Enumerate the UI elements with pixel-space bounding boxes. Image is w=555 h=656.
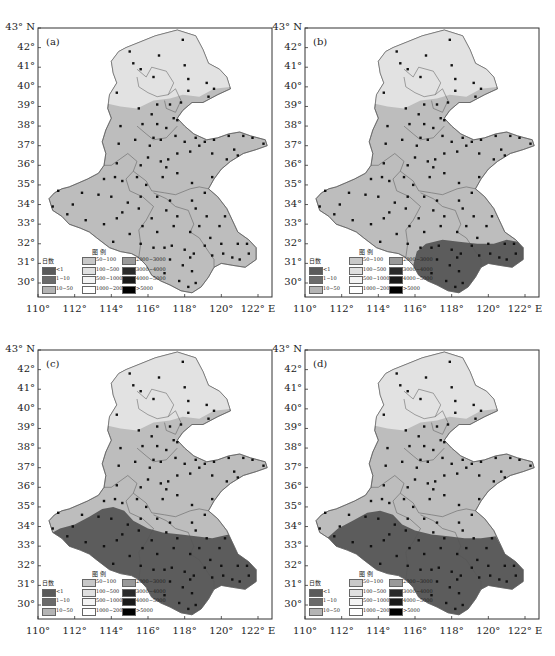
station-marker [471, 245, 473, 247]
station-marker [423, 553, 425, 555]
station-marker [191, 182, 193, 184]
lat-tick-label: 43° N [272, 21, 302, 32]
station-marker [228, 135, 230, 137]
legend-item-label: 500~1000 [363, 597, 389, 603]
station-marker [462, 459, 464, 461]
station-marker [156, 103, 158, 105]
station-marker [160, 160, 162, 162]
legend-item-label: 2000~3000 [136, 256, 166, 262]
station-marker [127, 201, 129, 203]
lat-tick-label: 33° [272, 539, 302, 550]
legend-swatch [82, 589, 96, 597]
station-marker [204, 463, 206, 465]
legend-item-label: 10~50 [323, 607, 340, 613]
station-marker [251, 137, 253, 139]
station-marker [456, 578, 458, 580]
station-marker [462, 529, 464, 531]
legend-item: <1 [307, 266, 347, 274]
legend-swatch [349, 579, 363, 587]
lon-tick-label: 112° [55, 303, 95, 314]
station-marker [425, 376, 427, 378]
station-marker [449, 264, 451, 266]
station-marker [513, 565, 515, 567]
station-marker [493, 480, 495, 482]
lat-tick-label: 33° [272, 217, 302, 228]
station-marker [118, 465, 120, 467]
station-marker [52, 527, 54, 529]
station-marker [432, 127, 434, 129]
station-marker [513, 243, 515, 245]
station-marker [233, 148, 235, 150]
station-marker [407, 565, 409, 567]
station-marker [352, 541, 354, 543]
lat-tick-label: 32° [5, 559, 35, 570]
legend-item: 1000~2000 [80, 285, 120, 293]
legend-item: 1~10 [307, 275, 347, 283]
legend-item-label: 4000~5000 [403, 275, 433, 281]
panel-label: (b) [313, 36, 327, 47]
station-marker [456, 256, 458, 258]
station-marker [407, 68, 409, 70]
station-marker [211, 474, 213, 476]
station-marker [169, 521, 171, 523]
lon-tick-label: 110° [18, 303, 58, 314]
lat-tick-label: 34° [5, 520, 35, 531]
station-marker [454, 608, 456, 610]
station-marker [195, 137, 197, 139]
station-marker [418, 113, 420, 115]
station-marker [465, 547, 467, 549]
station-marker [195, 282, 197, 284]
station-marker [443, 152, 445, 154]
station-marker [504, 476, 506, 478]
lon-tick-label: 118° [432, 303, 472, 314]
station-marker [529, 143, 531, 145]
station-marker [333, 535, 335, 537]
station-marker [189, 472, 191, 474]
station-marker [529, 465, 531, 467]
legend-item: 3000~4000 [387, 266, 427, 274]
station-marker [228, 457, 230, 459]
station-marker [151, 539, 153, 541]
legend-item: 1000~2000 [347, 285, 387, 293]
station-marker [173, 439, 175, 441]
station-marker [140, 196, 142, 198]
station-marker [449, 586, 451, 588]
station-marker [407, 518, 409, 520]
station-marker [441, 135, 443, 137]
station-marker [480, 88, 482, 90]
legend-item: 2000~3000 [387, 256, 427, 264]
station-marker [487, 565, 489, 567]
station-marker [500, 470, 502, 472]
station-marker [156, 123, 158, 125]
lat-tick-label: 38° [5, 119, 35, 130]
station-marker [129, 233, 131, 235]
legend-item-label: 3000~4000 [403, 588, 433, 594]
station-marker [436, 258, 438, 260]
station-marker [423, 123, 425, 125]
station-marker [189, 231, 191, 233]
station-marker [81, 514, 83, 516]
station-marker [403, 176, 405, 178]
station-marker [213, 461, 215, 463]
station-marker [206, 82, 208, 84]
legend-swatch [309, 598, 323, 606]
station-marker [151, 217, 153, 219]
legend-swatch [42, 267, 56, 275]
station-marker [518, 459, 520, 461]
legend-item-label: 1~10 [323, 597, 337, 603]
station-marker [116, 484, 118, 486]
station-marker [407, 164, 409, 166]
station-marker [388, 533, 390, 535]
legend-item: >5000 [120, 285, 160, 293]
station-marker [443, 119, 445, 121]
station-marker [165, 449, 167, 451]
station-marker [141, 445, 143, 447]
station-marker [57, 512, 59, 514]
station-marker [262, 465, 264, 467]
station-marker [480, 410, 482, 412]
station-marker [403, 498, 405, 500]
station-marker [116, 539, 118, 541]
legend-item-label: 50~100 [96, 578, 116, 584]
legend-item: 50~100 [80, 256, 120, 264]
station-marker [348, 192, 350, 194]
